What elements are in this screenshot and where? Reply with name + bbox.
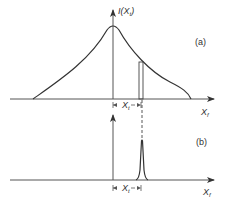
panel-a bbox=[10, 10, 214, 108]
panel-b bbox=[10, 115, 214, 191]
narrow-peak bbox=[136, 140, 148, 180]
panel-a-y-axis-label: I(Xt) bbox=[118, 7, 134, 17]
sample-bar bbox=[139, 62, 143, 99]
panel-b-label: (b) bbox=[196, 138, 207, 147]
panel-b-offset-label: Xt bbox=[122, 184, 130, 194]
panel-a-offset-label: Xt bbox=[122, 101, 130, 111]
intensity-curve bbox=[33, 26, 191, 99]
panel-a-x-axis-label: Xf bbox=[201, 108, 209, 118]
diagram-canvas bbox=[0, 0, 227, 204]
panel-b-x-axis-label: Xf bbox=[203, 188, 211, 198]
panel-a-label: (a) bbox=[195, 38, 206, 47]
